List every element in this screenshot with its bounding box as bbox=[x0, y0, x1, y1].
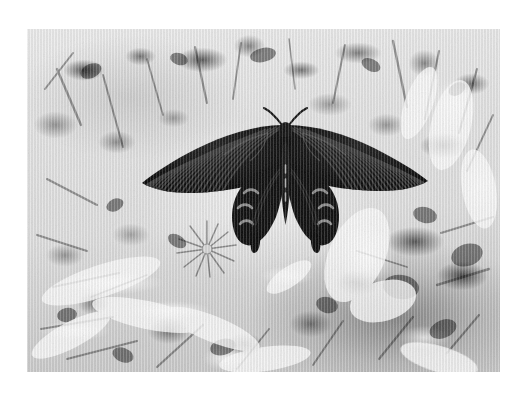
butterfly-left-tail bbox=[251, 233, 261, 253]
photograph bbox=[27, 29, 500, 372]
butterfly-right-tail bbox=[311, 233, 321, 253]
butterfly-subject bbox=[140, 107, 430, 253]
page-canvas: Black and white photograph of a dark swa… bbox=[0, 0, 523, 397]
